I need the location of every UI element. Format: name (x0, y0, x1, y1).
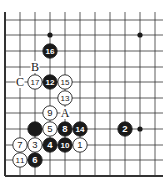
move-number: 7 (17, 139, 22, 150)
star-point (137, 126, 142, 131)
stone-circle (28, 122, 42, 136)
letter-marker-a: A (61, 106, 70, 120)
white-stone-11: 11 (13, 153, 27, 167)
black-stone-12: 12 (43, 75, 57, 89)
move-number: 12 (46, 78, 56, 87)
go-board: BCA 1617121513958142734101116 (0, 0, 168, 187)
white-stone-7: 7 (13, 138, 27, 152)
move-number: 4 (47, 139, 53, 150)
white-stone-9: 9 (43, 106, 57, 120)
white-stone-17: 17 (28, 75, 42, 89)
move-number: 9 (47, 107, 52, 118)
black-stone (28, 122, 42, 136)
move-number: 8 (62, 123, 67, 134)
move-number: 11 (16, 156, 26, 165)
letter-marker-b: B (31, 60, 39, 74)
letter-markers: BCA (16, 60, 70, 120)
white-stone-3: 3 (28, 138, 42, 152)
move-number: 15 (61, 78, 71, 87)
black-stone-6: 6 (28, 153, 42, 167)
move-number: 17 (31, 78, 41, 87)
white-stone-13: 13 (58, 91, 72, 105)
black-stone-14: 14 (73, 122, 87, 136)
move-number: 1 (77, 139, 82, 150)
move-number: 13 (61, 94, 71, 103)
move-number: 3 (32, 139, 37, 150)
move-number: 14 (76, 125, 86, 134)
black-stone-2: 2 (118, 122, 132, 136)
star-point (137, 32, 142, 37)
letter-marker-c: C (16, 75, 24, 89)
white-stone-1: 1 (73, 138, 87, 152)
white-stone-15: 15 (58, 75, 72, 89)
move-number: 6 (32, 154, 37, 165)
move-number: 2 (122, 123, 127, 134)
white-stone-5: 5 (43, 122, 57, 136)
move-number: 10 (61, 141, 71, 150)
move-number: 16 (46, 47, 56, 56)
black-stone-8: 8 (58, 122, 72, 136)
black-stone-16: 16 (43, 44, 57, 58)
black-stone-10: 10 (58, 138, 72, 152)
black-stone-4: 4 (43, 138, 57, 152)
star-point (47, 32, 52, 37)
move-number: 5 (47, 123, 52, 134)
